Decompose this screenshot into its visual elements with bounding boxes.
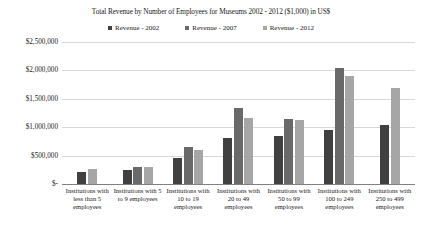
legend-item[interactable]: Revenue - 2012 [263,24,314,32]
legend-swatch-icon [263,26,267,30]
x-axis-line [62,184,415,185]
bar-group-bars [112,42,162,184]
x-axis-category-label: Institutions with 5 to 9 employees [112,187,162,203]
y-axis: $2,500,000$2,000,000$1,500,000$1,000,000… [0,0,58,237]
legend-swatch-icon [108,26,112,30]
y-axis-tick-label: $- [0,180,58,188]
bar[interactable] [295,120,304,184]
bar[interactable] [284,119,293,184]
x-axis-category-label: Institutions with 50 to 99 employees [264,187,314,212]
legend-label: Revenue - 2002 [115,24,159,32]
x-axis-labels: Institutions with less than 5 employeesI… [62,187,415,237]
bar[interactable] [88,169,97,184]
bar[interactable] [77,172,86,184]
bar[interactable] [244,118,253,184]
legend-item[interactable]: Revenue - 2007 [185,24,236,32]
bar[interactable] [335,68,344,184]
bar-group-bars [365,42,415,184]
y-axis-tick-label: $1,500,000 [0,95,58,103]
bar[interactable] [144,167,153,184]
bar[interactable] [324,130,333,184]
bar[interactable] [380,125,389,184]
bar-group-bars [213,42,263,184]
bar-group-bars [62,42,112,184]
legend-item[interactable]: Revenue - 2002 [108,24,159,32]
bar-chart: Total Revenue by Number of Employees for… [0,0,422,237]
bar-group [112,42,162,184]
legend-label: Revenue - 2007 [192,24,236,32]
x-axis-category-label: Institutions with 250 to 499 employees [365,187,415,212]
bar[interactable] [274,136,283,184]
bar-group [314,42,364,184]
bar-group [213,42,263,184]
bar-group [163,42,213,184]
bar-group-bars [264,42,314,184]
x-axis-category-label: Institutions with less than 5 employees [62,187,112,212]
bar-group-bars [163,42,213,184]
chart-title: Total Revenue by Number of Employees for… [0,7,422,16]
bar-group [365,42,415,184]
bar[interactable] [345,76,354,184]
bar[interactable] [184,147,193,184]
chart-legend: Revenue - 2002Revenue - 2007Revenue - 20… [0,24,422,32]
bar-group [264,42,314,184]
y-axis-tick-label: $2,500,000 [0,38,58,46]
bar[interactable] [133,167,142,184]
bar[interactable] [173,158,182,184]
bar-group [62,42,112,184]
x-axis-category-label: Institutions with 100 to 249 employees [314,187,364,212]
bar[interactable] [234,108,243,184]
y-axis-tick-label: $500,000 [0,152,58,160]
bar-group-bars [314,42,364,184]
legend-label: Revenue - 2012 [270,24,314,32]
legend-swatch-icon [185,26,189,30]
y-axis-tick-label: $2,000,000 [0,66,58,74]
bar[interactable] [223,138,232,184]
bar[interactable] [391,88,400,184]
bar[interactable] [123,170,132,184]
bar[interactable] [194,150,203,184]
y-axis-tick-label: $1,000,000 [0,123,58,131]
x-axis-category-label: Institutions with 10 to 19 employees [163,187,213,212]
plot-area [62,42,415,184]
x-axis-category-label: Institutions with 20 to 49 employees [213,187,263,212]
